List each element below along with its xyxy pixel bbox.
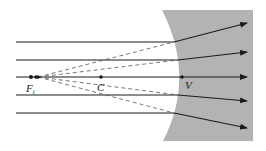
center-dot: [99, 75, 103, 79]
focal-point-label: Fi: [25, 82, 35, 96]
focal-point-dot: [29, 75, 33, 79]
center-label: C: [97, 81, 105, 93]
refraction-diagram: Fi C V: [0, 0, 266, 151]
refracting-medium: [162, 10, 253, 141]
vertex-dot: [180, 75, 184, 79]
focal-convergence-mark: [34, 75, 40, 79]
